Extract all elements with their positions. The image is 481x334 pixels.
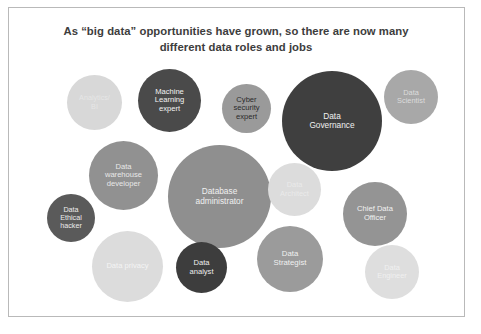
bubble-label: Cyber security expert (223, 96, 269, 122)
slide-canvas: As “big data” opportunities have grown, … (0, 0, 481, 334)
bubble-label: Data Governance (285, 112, 379, 131)
bubble[interactable]: Data Ethical hacker (47, 194, 95, 242)
bubble-label: Machine Learning expert (140, 88, 199, 114)
bubble[interactable]: Data Scientist (384, 70, 438, 124)
bubble[interactable]: Machine Learning expert (138, 69, 201, 132)
bubble[interactable]: Data Strategist (257, 226, 323, 292)
bubble-label: Data analyst (178, 259, 226, 276)
bubble[interactable]: Cyber security expert (222, 84, 271, 133)
bubble-label: Analytics/ BI (69, 94, 121, 110)
bubble-label: Data warehouse developer (91, 163, 156, 189)
bubble-label: Chief Data Officer (345, 205, 405, 222)
bubble[interactable]: Data Governance (282, 71, 382, 171)
bubble-label: Data Strategist (259, 250, 321, 268)
bubble[interactable]: Data Engineer (365, 245, 419, 299)
bubble-chart: Analytics/ BIMachine Learning expertCybe… (0, 0, 481, 334)
bubble[interactable]: Chief Data Officer (343, 182, 407, 246)
bubble-label: Data privacy (94, 262, 161, 271)
bubble[interactable]: Data privacy (92, 231, 163, 302)
bubble-label: Data Architect (270, 181, 320, 198)
bubble[interactable]: Data analyst (176, 242, 227, 293)
bubble[interactable]: Data warehouse developer (89, 141, 158, 210)
bubble-label: Database administrator (171, 187, 268, 206)
bubble-label: Data Engineer (367, 264, 418, 281)
bubble-label: Data Ethical hacker (48, 206, 93, 231)
bubble[interactable]: Database administrator (168, 145, 271, 248)
bubble[interactable]: Analytics/ BI (67, 75, 122, 130)
bubble-label: Data Scientist (386, 89, 437, 106)
bubble[interactable]: Data Architect (268, 163, 321, 216)
